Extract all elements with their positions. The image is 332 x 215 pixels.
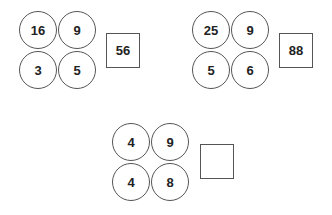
circle-top-left: 16	[19, 11, 57, 49]
circle-top-left: 25	[192, 11, 230, 49]
answer-box-empty	[200, 144, 234, 179]
circle-bottom-left: 5	[192, 51, 230, 89]
circle-bottom-right: 5	[58, 51, 96, 89]
circle-bottom-right: 8	[151, 163, 189, 201]
circle-bottom-left: 4	[112, 163, 150, 201]
answer-box: 56	[106, 33, 140, 68]
answer-box: 88	[279, 33, 313, 68]
circle-top-right: 9	[58, 11, 96, 49]
circle-top-right: 9	[231, 11, 269, 49]
circle-bottom-left: 3	[19, 51, 57, 89]
circle-top-left: 4	[112, 123, 150, 161]
circle-bottom-right: 6	[231, 51, 269, 89]
circle-top-right: 9	[151, 123, 189, 161]
